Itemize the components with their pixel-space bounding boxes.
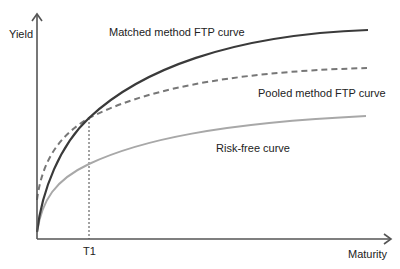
yield-curve-chart — [0, 0, 400, 269]
y-axis-label: Yield — [9, 29, 33, 40]
t1-tick-label: T1 — [83, 246, 96, 257]
pooled-curve-label: Pooled method FTP curve — [258, 88, 386, 99]
risk-free-curve — [37, 116, 366, 232]
risk-free-curve-label: Risk-free curve — [216, 143, 290, 154]
x-axis-label: Maturity — [348, 249, 387, 260]
matched-curve-label: Matched method FTP curve — [109, 27, 245, 38]
